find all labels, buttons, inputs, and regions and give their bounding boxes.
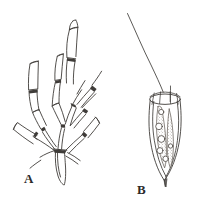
zooid-center-tall xyxy=(52,54,63,106)
basal-tip xyxy=(163,176,167,186)
panel-label-b: B xyxy=(137,183,146,196)
branch-central-v xyxy=(52,103,77,149)
branch-lower-left xyxy=(30,151,54,168)
flagellum xyxy=(128,14,164,93)
zooid-left-tall xyxy=(28,61,39,111)
figure-canvas: A B xyxy=(0,0,205,222)
branch-left xyxy=(13,123,54,151)
panel-a-drawing xyxy=(13,20,101,185)
figure-drawing xyxy=(0,0,205,222)
panel-b-drawing xyxy=(128,14,182,187)
zooid-right-lower xyxy=(66,153,80,164)
basal-stalk xyxy=(55,151,65,186)
panel-label-a: A xyxy=(24,172,33,185)
zooid-apex xyxy=(66,20,78,84)
branch-right-fan xyxy=(66,71,102,153)
